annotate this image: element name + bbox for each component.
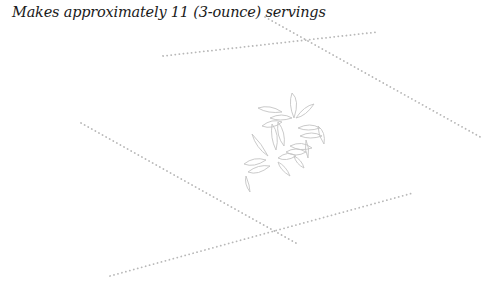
dotted-line-2 bbox=[265, 17, 482, 138]
dotted-line-1 bbox=[163, 32, 378, 56]
dotted-line-3 bbox=[81, 123, 296, 243]
leaves-icon bbox=[244, 93, 324, 192]
dotted-line-4 bbox=[110, 193, 413, 276]
decorative-lines bbox=[0, 0, 497, 287]
